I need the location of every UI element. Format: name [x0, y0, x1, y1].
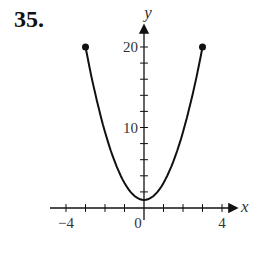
y-tick-label: 20 [123, 39, 138, 55]
endpoint-dot [82, 44, 89, 51]
y-tick-label: 10 [123, 120, 138, 136]
x-tick-label: 4 [218, 215, 226, 231]
endpoint-dot [199, 44, 206, 51]
axes: −4041020xy [50, 3, 249, 231]
parabola-chart: −4041020xy [0, 0, 267, 257]
y-axis-label: y [142, 3, 152, 22]
x-axis-label: x [240, 197, 249, 216]
x-tick-label: −4 [58, 215, 74, 231]
x-tick-label: 0 [134, 215, 142, 231]
